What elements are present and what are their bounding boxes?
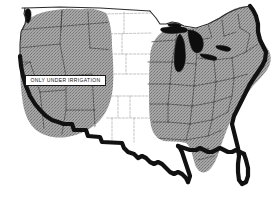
us-thematic-map: ONLY UNDER IRRIGATION bbox=[0, 0, 279, 202]
irrigation-callout-label: ONLY UNDER IRRIGATION bbox=[31, 78, 101, 84]
map-svg bbox=[0, 0, 279, 202]
irrigation-callout-box: ONLY UNDER IRRIGATION bbox=[25, 75, 106, 86]
